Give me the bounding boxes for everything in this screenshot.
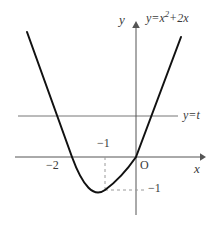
curve-equation-label: y=x2+2x bbox=[146, 10, 189, 24]
curve-equation-lead: y=x bbox=[146, 11, 165, 25]
y-axis-label: y bbox=[119, 13, 125, 26]
y-axis-arrowhead bbox=[132, 21, 140, 28]
x-tick-label-minus-two: −2 bbox=[46, 159, 59, 171]
x-axis-label: x bbox=[194, 162, 200, 175]
parabola-figure: y x y=x2+2x y=t O −1 −2 −1 bbox=[0, 0, 224, 225]
curve-equation-tail: +2x bbox=[169, 11, 188, 25]
x-axis-arrowhead bbox=[200, 153, 206, 161]
x-tick-label-minus-one: −1 bbox=[97, 137, 110, 149]
horizontal-line-label: y=t bbox=[183, 109, 200, 121]
y-tick-label-minus-one: −1 bbox=[148, 182, 161, 194]
origin-label: O bbox=[140, 159, 149, 171]
